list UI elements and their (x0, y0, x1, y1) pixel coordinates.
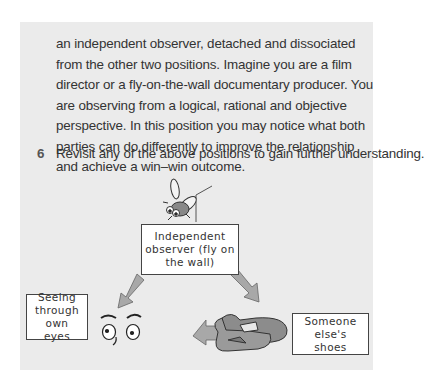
eyes-icon (101, 315, 141, 345)
someone-elses-shoes-label-box: Someone else's shoes (292, 313, 369, 355)
own-eyes-label: Seeing through own eyes (31, 291, 83, 343)
someone-elses-shoes-label: Someone else's shoes (298, 315, 364, 354)
observer-label: Independent observer (fly on the wall) (145, 230, 235, 269)
observer-label-box: Independent observer (fly on the wall) (141, 224, 239, 275)
shoes-icon (215, 314, 287, 351)
own-eyes-label-box: Seeing through own eyes (26, 294, 88, 340)
fly-icon (163, 178, 199, 220)
wall-corner-icon (196, 186, 212, 222)
